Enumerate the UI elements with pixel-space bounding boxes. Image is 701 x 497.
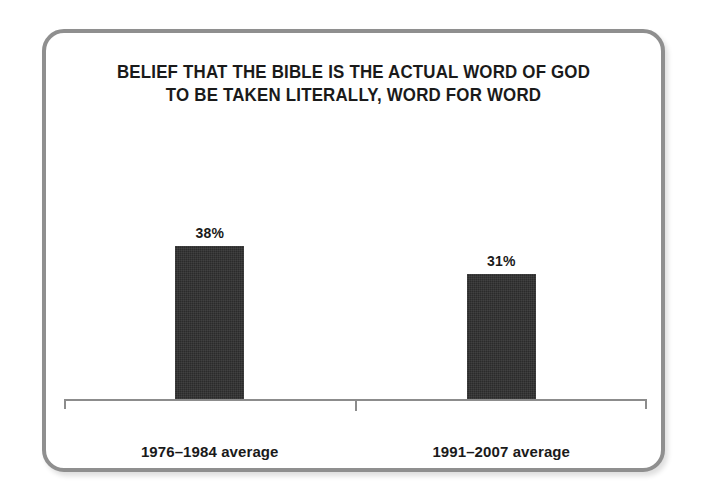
chart-title-line-2: TO BE TAKEN LITERALLY, WORD FOR WORD (57, 84, 650, 107)
bar-value-label-1: 38% (195, 225, 224, 241)
bar-column-1: 38% (64, 151, 356, 399)
bar-column-2: 31% (356, 151, 648, 399)
chart-title: BELIEF THAT THE BIBLE IS THE ACTUAL WORD… (57, 61, 650, 107)
chart-title-line-1: BELIEF THAT THE BIBLE IS THE ACTUAL WORD… (57, 61, 650, 84)
axis-tick-right (645, 399, 647, 409)
axis-tick-left (64, 399, 66, 409)
category-label-1: 1976–1984 average (64, 443, 356, 460)
x-axis-category-labels: 1976–1984 average 1991–2007 average (64, 443, 647, 460)
bar-2 (467, 274, 536, 399)
bar-series: 38% 31% (64, 151, 647, 399)
axis-tick-center (355, 399, 357, 411)
category-label-2: 1991–2007 average (356, 443, 648, 460)
bar-1 (175, 246, 244, 399)
bar-value-label-2: 31% (487, 253, 516, 269)
plot-area: 38% 31% (64, 151, 647, 431)
chart-frame: BELIEF THAT THE BIBLE IS THE ACTUAL WORD… (42, 29, 665, 472)
